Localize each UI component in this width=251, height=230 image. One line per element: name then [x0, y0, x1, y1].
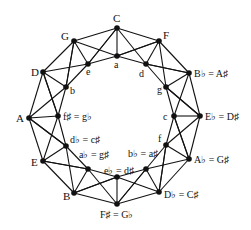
- node-Bb: [186, 70, 192, 76]
- edge: [74, 28, 117, 41]
- node-c: [171, 113, 177, 119]
- edge: [189, 73, 200, 116]
- node-A: [26, 115, 32, 121]
- label-b: b: [70, 85, 75, 96]
- node-d: [143, 61, 149, 67]
- node-C: [114, 25, 120, 31]
- edge: [74, 41, 117, 56]
- edge: [88, 56, 117, 64]
- node-f: [163, 142, 169, 148]
- node-E: [40, 158, 46, 164]
- label-A: A: [16, 112, 24, 124]
- edge: [29, 118, 66, 146]
- edge: [88, 28, 117, 64]
- node-ab: [85, 166, 91, 172]
- node-bb: [143, 166, 149, 172]
- label-E: E: [31, 156, 38, 168]
- node-a: [114, 53, 120, 59]
- label-a: a: [114, 59, 119, 70]
- node-F: [156, 38, 162, 44]
- label-G: G: [61, 30, 69, 42]
- edge: [74, 41, 88, 64]
- label-F: F: [163, 29, 169, 41]
- edge: [43, 72, 58, 116]
- label-Db: D♭ = C♯: [164, 189, 199, 200]
- label-fs: f♯ = g♭: [63, 111, 92, 122]
- node-D: [40, 69, 46, 75]
- edge: [117, 192, 159, 204]
- label-Fs: F♯ = G♭: [100, 209, 133, 220]
- node-Fs: [114, 201, 120, 207]
- edge: [29, 87, 66, 118]
- node-Ab: [186, 156, 192, 162]
- edge: [117, 28, 146, 64]
- label-Eb: E♭ = D♯: [205, 111, 239, 122]
- node-B: [71, 190, 77, 196]
- edge: [166, 73, 189, 87]
- label-c: c: [163, 111, 168, 122]
- edge: [174, 73, 189, 116]
- edge: [29, 72, 43, 118]
- label-g: g: [157, 84, 162, 95]
- labels: C F B♭ = A♯ E♭ = D♯ A♭ = G♯ D♭ = C♯ F♯ =…: [16, 12, 239, 220]
- label-eb: e♭ = d♯: [104, 165, 134, 176]
- edge: [74, 177, 117, 193]
- node-fs: [55, 113, 61, 119]
- edge: [166, 145, 189, 159]
- node-G: [71, 38, 77, 44]
- edge: [174, 116, 189, 159]
- edge: [74, 193, 117, 204]
- edge: [117, 28, 159, 41]
- edge: [29, 116, 58, 118]
- node-Db: [156, 189, 162, 195]
- label-db: d♭ = c♯: [70, 134, 100, 145]
- node-db: [63, 143, 69, 149]
- edge: [74, 169, 88, 193]
- node-g: [163, 84, 169, 90]
- label-ab: a♭ = g♯: [79, 149, 109, 160]
- label-B: B: [63, 190, 70, 202]
- edge: [29, 118, 43, 161]
- label-f: f: [158, 133, 162, 144]
- label-d: d: [139, 68, 144, 79]
- edge: [43, 72, 66, 87]
- label-C: C: [113, 12, 120, 24]
- label-Bb: B♭ = A♯: [194, 68, 228, 79]
- edge: [117, 56, 146, 64]
- edge: [189, 116, 200, 159]
- label-bb: b♭ = a♯: [128, 148, 158, 159]
- label-e: e: [86, 66, 91, 77]
- label-D: D: [31, 66, 39, 78]
- node-b: [63, 84, 69, 90]
- key-circle-diagram: C F B♭ = A♯ E♭ = D♯ A♭ = G♯ D♭ = C♯ F♯ =…: [0, 0, 251, 230]
- node-Eb: [197, 113, 203, 119]
- label-Ab: A♭ = G♯: [194, 154, 229, 165]
- edge: [43, 146, 66, 161]
